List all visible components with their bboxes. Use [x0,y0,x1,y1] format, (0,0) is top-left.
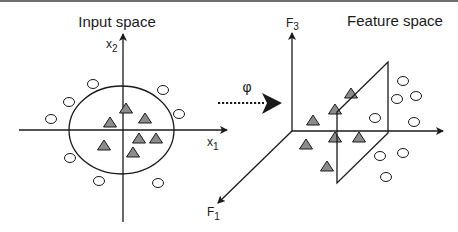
circle-marker [370,114,381,123]
class-b-circles [46,80,185,188]
triangle-marker [307,115,320,125]
circle-marker [381,173,392,182]
circle-marker [409,118,420,127]
kernel-mapping-diagram: Input space x2 x1 φ Feature space F3 F1 [0,0,458,232]
triangle-marker [300,139,313,149]
triangle-marker [139,113,152,123]
input-space-panel: Input space x2 x1 [19,13,227,222]
phi-symbol: φ [242,79,251,95]
x2-axis-label: x2 [106,37,118,54]
triangle-marker [133,133,146,143]
triangle-marker [127,147,140,157]
triangle-marker [321,161,334,171]
feature-space-panel: Feature space F3 F1 [207,12,443,222]
x1-axis-label: x1 [207,135,219,152]
circle-marker [411,92,422,101]
circle-marker [398,77,409,86]
phi-mapping-arrow: φ [218,79,282,114]
circle-marker [65,154,76,163]
triangle-marker [120,103,133,113]
circle-marker [375,152,386,161]
separating-hyperplane [337,62,388,183]
circle-marker [392,95,403,104]
mapped-class-a-triangles [300,88,366,171]
circle-marker [64,98,75,107]
circle-marker [46,115,57,124]
circle-marker [153,179,164,188]
circle-marker [174,110,185,119]
circle-marker [94,177,105,186]
f3-axis-label: F3 [286,16,299,32]
input-space-title: Input space [78,13,156,30]
triangle-marker [98,140,111,150]
arrowhead-icon [262,93,282,114]
circle-marker [158,86,169,95]
triangle-marker [353,132,366,142]
f1-axis [218,131,292,203]
triangle-marker [329,132,342,142]
feature-space-title: Feature space [347,12,443,29]
circle-marker [88,80,99,89]
triangle-marker [150,133,163,143]
triangle-marker [104,117,117,127]
f1-axis-label: F1 [207,205,220,222]
mapped-class-b-circles [370,77,422,182]
circle-marker [398,149,409,158]
